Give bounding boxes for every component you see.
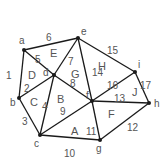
face-label-J: J: [132, 86, 138, 98]
vertex-label-b: b: [10, 97, 16, 108]
edge-label-5: 5: [35, 54, 41, 65]
face-label-C: C: [30, 96, 38, 108]
face-label-B: B: [57, 93, 64, 105]
edge-14: [78, 38, 92, 101]
vertex-g: [98, 138, 102, 142]
vertex-label-e: e: [81, 26, 87, 37]
edge-label-13: 13: [114, 93, 126, 104]
vertex-i: [133, 70, 137, 74]
vertex-h: [147, 101, 151, 105]
vertex-c: [38, 133, 42, 137]
edge-label-7: 7: [68, 56, 74, 67]
vertex-b: [17, 96, 21, 100]
planar-graph-diagram: 1234567891011121314151617abcdefghiABCDEF…: [0, 0, 166, 162]
vertex-label-f: f: [86, 90, 89, 101]
edge-label-4: 4: [42, 101, 48, 112]
edge-label-15: 15: [107, 45, 119, 56]
edge-label-11: 11: [86, 126, 97, 137]
vertex-f: [90, 99, 94, 103]
vertex-a: [22, 48, 26, 52]
face-label-E: E: [50, 47, 57, 59]
edge-label-1: 1: [6, 70, 12, 81]
edge-label-16: 16: [107, 80, 119, 91]
face-label-F: F: [108, 108, 115, 120]
vertex-label-d: d: [43, 67, 49, 78]
edge-label-17: 17: [140, 80, 152, 91]
vertex-label-g: g: [96, 143, 102, 154]
edge-9: [40, 101, 92, 135]
edge-label-12: 12: [127, 122, 139, 133]
vertex-e: [76, 36, 80, 40]
edge-label-3: 3: [22, 116, 28, 127]
vertex-label-c: c: [34, 138, 39, 149]
edge-label-2: 2: [24, 83, 30, 94]
vertex-label-i: i: [138, 59, 140, 70]
vertex-d: [52, 73, 56, 77]
face-label-D: D: [28, 69, 36, 81]
edge-label-9: 9: [60, 106, 66, 117]
vertex-label-h: h: [154, 98, 160, 109]
face-label-G: G: [71, 68, 80, 80]
face-label-H: H: [98, 60, 106, 72]
edge-label-6: 6: [46, 32, 52, 43]
face-label-A: A: [71, 125, 79, 137]
edge-label-10: 10: [64, 148, 76, 159]
vertex-label-a: a: [19, 35, 25, 46]
